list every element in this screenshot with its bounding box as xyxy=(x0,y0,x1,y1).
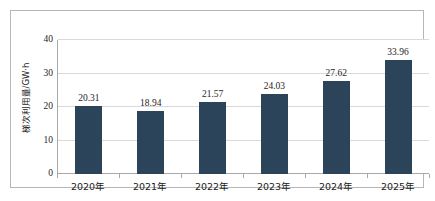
y-tick-label: 30 xyxy=(31,69,53,79)
bar[interactable]: 18.94 xyxy=(137,111,164,174)
y-axis-tick-labels: 40 30 20 10 0 xyxy=(29,11,53,187)
bar-value-label: 27.62 xyxy=(326,68,347,78)
x-axis-tick xyxy=(181,174,182,178)
x-axis-category-label: 2022年 xyxy=(181,180,243,194)
bar-value-label: 33.96 xyxy=(387,47,408,57)
x-axis-tick xyxy=(367,174,368,178)
x-axis-ticks xyxy=(57,174,429,178)
bar-value-label: 24.03 xyxy=(264,81,285,91)
bar-slot: 27.62 xyxy=(305,40,367,174)
x-axis-category-label: 2024年 xyxy=(305,180,367,194)
bar-slot: 21.57 xyxy=(182,40,244,174)
x-axis-tick xyxy=(119,174,120,178)
x-axis-category-label: 2023年 xyxy=(243,180,305,194)
x-axis-tick xyxy=(429,174,430,178)
bar-value-label: 18.94 xyxy=(140,98,161,108)
x-axis-category-label: 2021年 xyxy=(119,180,181,194)
x-axis-category-label: 2025年 xyxy=(367,180,429,194)
bar[interactable]: 27.62 xyxy=(323,81,350,174)
y-tick-label: 40 xyxy=(31,35,53,45)
bars-container: 20.3118.9421.5724.0327.6233.96 xyxy=(58,40,429,174)
y-tick-label: 10 xyxy=(31,136,53,146)
chart-frame: 梯次利用量/GW·h 40 30 20 10 0 20.3118.9421.57… xyxy=(10,10,424,188)
bar[interactable]: 20.31 xyxy=(75,106,102,174)
x-axis-tick xyxy=(305,174,306,178)
x-axis-category-label: 2020年 xyxy=(57,180,119,194)
plot-area: 20.3118.9421.5724.0327.6233.96 xyxy=(57,40,429,174)
y-tick-label: 0 xyxy=(31,169,53,179)
y-tick-label: 20 xyxy=(31,102,53,112)
bar-slot: 24.03 xyxy=(243,40,305,174)
x-axis-tick xyxy=(243,174,244,178)
bar[interactable]: 21.57 xyxy=(199,102,226,174)
bar[interactable]: 24.03 xyxy=(261,94,288,175)
bar-slot: 20.31 xyxy=(58,40,120,174)
bar[interactable]: 33.96 xyxy=(385,60,412,174)
bar-value-label: 20.31 xyxy=(78,93,99,103)
bar-value-label: 21.57 xyxy=(202,89,223,99)
x-axis-tick xyxy=(57,174,58,178)
bar-slot: 18.94 xyxy=(120,40,182,174)
x-axis-labels: 2020年2021年2022年2023年2024年2025年 xyxy=(57,180,429,194)
bar-slot: 33.96 xyxy=(367,40,429,174)
